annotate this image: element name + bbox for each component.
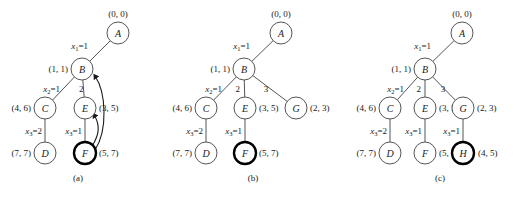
node-b-F[interactable]: F(5, 7) [234, 142, 279, 164]
edge-label-b-AB: x1=1 [232, 41, 250, 52]
node-c-G[interactable]: G(2, 3) [452, 97, 497, 119]
edge-label-b-CD: x3=2 [185, 126, 203, 137]
node-label-E: E [81, 103, 88, 114]
node-c-D[interactable]: D(7, 7) [357, 142, 402, 164]
edge-label-a-EF: x3=1 [64, 126, 82, 137]
edge-label-a-BE: 2 [79, 84, 84, 94]
node-pair-label-H: (4, 5) [478, 148, 498, 158]
node-label-C: C [387, 103, 394, 114]
edge-label-c-AB: x1=1 [413, 41, 431, 52]
edge-label-c-BE: 2 [417, 84, 422, 94]
node-b-D[interactable]: D(7, 7) [173, 142, 218, 164]
node-label-F: F [421, 148, 429, 159]
node-label-F: F [81, 148, 89, 159]
node-c-B[interactable]: B(1, 1) [392, 58, 437, 80]
panel-caption-b: (b) [248, 173, 259, 183]
node-c-A[interactable]: A(0, 0) [451, 9, 473, 44]
node-a-F[interactable]: F(5, 7) [74, 142, 119, 164]
edge-B-G [253, 76, 287, 102]
edge-label-b-BE: 2 [236, 84, 241, 94]
node-pair-label-A: (0, 0) [108, 9, 128, 19]
node-b-C[interactable]: C(4, 6) [173, 97, 218, 119]
edge-label-a-CD: x3=2 [24, 126, 42, 137]
node-pair-label-G: (2, 3) [310, 103, 330, 113]
node-pair-label-B: (1, 1) [211, 64, 231, 74]
node-label-E: E [241, 103, 248, 114]
panel-c: x1=1x2=123x3=2x3=1x3=1A(0, 0)B(1, 1)C(4,… [357, 9, 498, 183]
node-pair-label-A: (0, 0) [452, 9, 472, 19]
node-label-D: D [385, 148, 394, 159]
node-label-C: C [42, 103, 49, 114]
node-label-D: D [201, 148, 210, 159]
node-pair-label-F: (5, 7) [259, 148, 279, 158]
node-b-G[interactable]: G(2, 3) [285, 97, 330, 119]
edge-label-c-BG: 3 [441, 84, 446, 94]
node-pair-label-E: (3, 5) [99, 103, 119, 113]
node-c-H[interactable]: H(4, 5) [452, 142, 498, 164]
node-label-C: C [203, 103, 210, 114]
node-a-A[interactable]: A(0, 0) [107, 9, 129, 44]
edge-label-c-EF: x3=1 [404, 126, 422, 137]
panel-caption-c: (c) [435, 173, 445, 183]
node-pair-label-C: (4, 6) [12, 103, 32, 113]
node-label-A: A [277, 28, 285, 39]
node-a-C[interactable]: C(4, 6) [12, 97, 57, 119]
node-label-G: G [292, 103, 299, 114]
node-b-E[interactable]: E(3, 5) [234, 97, 279, 119]
node-a-B[interactable]: B(1, 1) [49, 58, 94, 80]
node-a-D[interactable]: D(7, 7) [12, 142, 57, 164]
node-pair-label-G: (2, 3) [477, 103, 497, 113]
arrow-f-to-e [92, 115, 98, 146]
node-label-D: D [40, 148, 49, 159]
panel-caption-a: (a) [73, 173, 83, 183]
edge-label-b-BC: x2=1 [204, 84, 222, 95]
edge-label-b-EF: x3=1 [224, 126, 242, 137]
node-pair-label-B: (1, 1) [392, 64, 412, 74]
node-a-E[interactable]: E(3, 5) [74, 97, 119, 119]
figure-container: x1=1x2=12x3=2x3=1A(0, 0)B(1, 1)C(4, 6)E(… [0, 0, 522, 197]
node-pair-label-F: (5, 7) [99, 148, 119, 158]
node-pair-label-D: (7, 7) [12, 148, 32, 158]
node-label-B: B [79, 64, 85, 75]
edge-A-B [433, 41, 454, 62]
node-pair-label-E: (3, 5) [259, 103, 279, 113]
panel-a: x1=1x2=12x3=2x3=1A(0, 0)B(1, 1)C(4, 6)E(… [12, 9, 130, 183]
node-label-B: B [422, 64, 428, 75]
node-pair-label-D: (7, 7) [357, 148, 377, 158]
node-c-C[interactable]: C(4, 6) [357, 97, 402, 119]
node-label-G: G [459, 103, 466, 114]
node-label-H: H [458, 148, 467, 159]
node-label-E: E [421, 103, 428, 114]
node-b-A[interactable]: A(0, 0) [270, 9, 292, 44]
node-pair-label-C: (4, 6) [173, 103, 193, 113]
node-label-A: A [114, 28, 122, 39]
graph-figure-canvas: x1=1x2=12x3=2x3=1A(0, 0)B(1, 1)C(4, 6)E(… [0, 0, 522, 197]
edge-A-B [252, 41, 273, 62]
edge-label-a-BC: x2=1 [42, 84, 60, 95]
edge-label-c-BC: x2=1 [386, 84, 404, 95]
node-pair-label-C: (4, 6) [357, 103, 377, 113]
edge-label-c-GH: x3=1 [442, 126, 460, 137]
node-pair-label-D: (7, 7) [173, 148, 193, 158]
node-pair-label-B: (1, 1) [49, 64, 69, 74]
node-label-A: A [458, 28, 466, 39]
edge-label-c-CD: x3=2 [369, 126, 387, 137]
edge-label-b-BG: 3 [264, 84, 269, 94]
node-label-B: B [241, 64, 247, 75]
edge-A-B [90, 41, 110, 61]
edge-label-a-AB: x1=1 [70, 41, 88, 52]
node-b-B[interactable]: B(1, 1) [211, 58, 256, 80]
node-label-F: F [241, 148, 249, 159]
panel-b: x1=1x2=123x3=2x3=1A(0, 0)B(1, 1)C(4, 6)E… [173, 9, 330, 183]
node-pair-label-A: (0, 0) [271, 9, 291, 19]
